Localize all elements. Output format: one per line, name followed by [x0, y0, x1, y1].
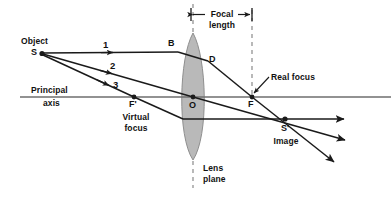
- object-point-label: S: [31, 47, 37, 57]
- lens-plane-label-line1: Lens: [203, 163, 223, 173]
- optics-ray-diagram: Object S 1 2 3 Principal axis F' Virtual…: [0, 0, 391, 197]
- axis-label: axis: [43, 98, 60, 108]
- ray-3-label: 3: [113, 80, 118, 90]
- point-o-dot: [191, 95, 196, 100]
- focal-length-label-line1: Focal: [203, 9, 241, 19]
- point-s-dot: [39, 51, 44, 56]
- ray-1-label: 1: [103, 40, 108, 50]
- image-caption-label: Image: [267, 136, 305, 146]
- virtual-focus-point-label: F': [129, 99, 137, 109]
- principal-label: Principal: [31, 85, 68, 95]
- real-focus-callout-label: Real focus: [271, 72, 315, 82]
- lens-plane-label-line2: plane: [203, 174, 226, 184]
- virtual-focus-caption-line2: focus: [113, 123, 159, 133]
- object-label: Object: [21, 36, 48, 46]
- point-f-label: F: [248, 99, 254, 109]
- real-focus-leader-line: [254, 77, 269, 93]
- image-point-label: S': [281, 123, 289, 133]
- point-s-prime-dot: [282, 116, 287, 121]
- point-d-label: D: [209, 54, 216, 64]
- virtual-focus-caption-line1: Virtual: [113, 112, 159, 122]
- ray-2-label: 2: [110, 61, 115, 71]
- point-b-label: B: [168, 38, 175, 48]
- focal-length-label-line2: length: [203, 20, 241, 30]
- point-o-label: O: [189, 100, 196, 110]
